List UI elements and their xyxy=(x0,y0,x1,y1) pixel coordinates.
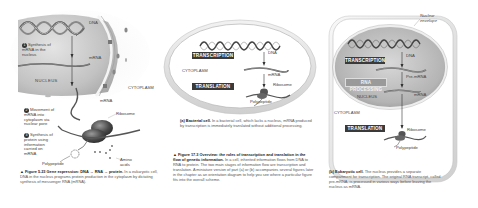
figure-5-23-caption: ▲ Figure 5.23 Gene expression: DNA → RNA… xyxy=(20,169,160,184)
label-mrna: mRNA xyxy=(268,73,280,78)
label-dna: DNA xyxy=(268,51,277,56)
label-polypeptide: Polypeptide xyxy=(42,162,64,167)
label-nucleus: NUCLEUS xyxy=(357,95,377,100)
label-dna: DNA xyxy=(406,54,415,59)
translation-box: TRANSLATION xyxy=(192,83,234,90)
transcription-box: TRANSCRIPTION xyxy=(345,57,385,64)
bacterial-cell-caption: (a) Bacterial cell. In a bacterial cell,… xyxy=(180,118,312,128)
label-nucleus: NUCLEUS xyxy=(35,79,58,84)
label-cytoplasm: CYTOPLASM xyxy=(128,86,154,91)
label-cytoplasm: CYTOPLASM xyxy=(182,69,208,74)
label-dna: DNA xyxy=(89,21,98,26)
label-polypeptide: Polypeptide xyxy=(396,146,418,151)
transcription-box: TRANSCRIPTION xyxy=(192,52,234,59)
label-ribosome: Ribosome xyxy=(407,128,426,133)
label-mrna-cytoplasm: mRNA xyxy=(100,99,112,104)
step-3: 3Synthesis of protein using information … xyxy=(24,133,54,156)
label-ribosome: Ribosome xyxy=(116,112,135,117)
eukaryotic-cell-caption: (b) Eukaryotic cell. The nucleus provide… xyxy=(329,169,441,189)
figure-17-3-caption: ▲ Figure 17.3 Overview: the roles of tra… xyxy=(173,152,314,183)
figure-bacterial-cell: TRANSCRIPTION TRANSLATION CYTOPLASM DNA … xyxy=(160,0,320,208)
rna-processing-box: RNA PROCESSING xyxy=(345,78,387,87)
label-polypeptide: Polypeptide xyxy=(250,100,272,105)
figure-eukaryotic-cell: Nuclear envelope TRANSCRIPTION RNA PROCE… xyxy=(320,0,478,208)
label-ribosome: Ribosome xyxy=(273,83,292,88)
label-amino-acids: Amino acids xyxy=(120,158,134,167)
label-mrna-nucleus: mRNA xyxy=(89,56,101,61)
translation-box: TRANSLATION xyxy=(345,125,385,132)
label-cytoplasm: CYTOPLASM xyxy=(334,111,360,116)
label-pre-mrna: Pre-mRNA xyxy=(406,75,426,80)
figure-gene-expression: DNA mRNA NUCLEUS CYTOPLASM mRNA Ribosome… xyxy=(0,0,160,208)
step-2: 2Movement of mRNA into cytoplasm via nuc… xyxy=(24,108,60,127)
label-nuclear-envelope: Nuclear envelope xyxy=(420,14,440,23)
label-mrna: mRNA xyxy=(414,93,426,98)
step-1: 1Synthesis of mRNA in the nucleus xyxy=(22,43,54,57)
